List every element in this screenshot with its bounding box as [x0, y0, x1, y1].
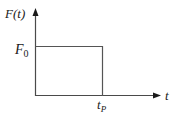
y-axis-arrow-icon — [33, 8, 39, 16]
level-label-sub: 0 — [24, 48, 29, 59]
level-label-main: F — [14, 42, 24, 57]
x-axis-label: t — [165, 88, 169, 103]
x-axis-arrow-icon — [153, 93, 161, 99]
duration-label: tP — [97, 97, 107, 114]
duration-label-sub: P — [100, 104, 107, 114]
pulse-diagram: F(t) t F0 tP — [0, 0, 176, 116]
y-axis-label: F(t) — [4, 6, 25, 21]
level-label: F0 — [14, 42, 29, 59]
